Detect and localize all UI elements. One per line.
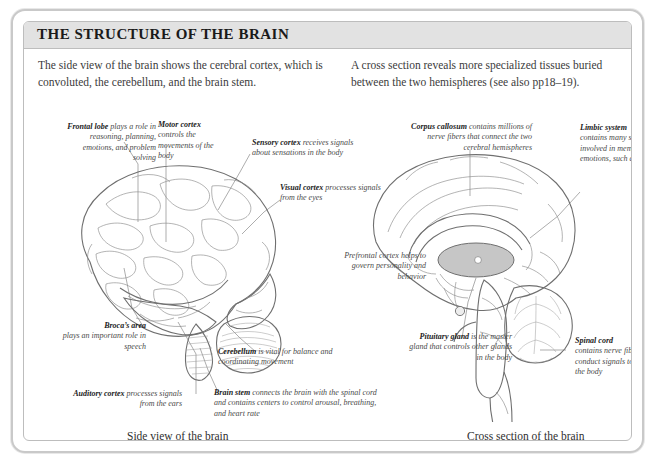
label-prefrontal-cortex-text: Prefrontal cortex helps to govern person… <box>344 251 426 281</box>
brain-stem-hatching <box>186 336 213 374</box>
label-motor-cortex: Motor cortex controls the movements of t… <box>158 120 228 162</box>
label-auditory-cortex: Auditory cortex processes signals from t… <box>58 389 182 410</box>
caption-side-view: Side view of the brain <box>127 430 229 441</box>
intro-text-right: A cross section reveals more specialized… <box>351 57 632 91</box>
label-limbic-system-text: contains many structures involved in mem… <box>580 133 632 163</box>
intro-text-left: The side view of the brain shows the cer… <box>38 57 338 91</box>
label-sensory-cortex-term: Sensory cortex <box>252 138 301 147</box>
page-title: THE STRUCTURE OF THE BRAIN <box>37 26 289 43</box>
label-spinal-cord-text: contains nerve fibers that conduct signa… <box>575 346 632 376</box>
label-brocas-area-text: plays an important role in speech <box>63 331 146 350</box>
label-visual-cortex-term: Visual cortex <box>280 183 323 192</box>
diagram-card-inner: THE STRUCTURE OF THE BRAIN The side view… <box>23 21 632 441</box>
label-spinal-cord: Spinal cord contains nerve fibers that c… <box>575 336 632 378</box>
label-motor-cortex-text: controls the movements of the body <box>158 130 214 160</box>
label-frontal-lobe-term: Frontal lobe <box>67 122 108 131</box>
caption-cross-section: Cross section of the brain <box>467 430 585 441</box>
label-corpus-callosum: Corpus callosum contains millions of ner… <box>408 122 532 153</box>
label-brocas-area: Broca’s area plays an important role in … <box>62 321 146 352</box>
label-cerebellum: Cerebellum is vital for balance and coor… <box>218 347 364 368</box>
label-auditory-cortex-text: processes signals from the ears <box>125 389 182 408</box>
page-background: THE STRUCTURE OF THE BRAIN The side view… <box>0 0 657 465</box>
cortex-gyri <box>88 175 270 321</box>
label-corpus-callosum-term: Corpus callosum <box>411 122 467 131</box>
label-spinal-cord-term: Spinal cord <box>575 336 613 345</box>
label-limbic-system: Limbic system contains many structures i… <box>580 123 632 165</box>
pituitary-gland-shape <box>455 282 465 316</box>
label-pituitary-gland-term: Pituitary gland <box>420 332 470 341</box>
thalamus-shape <box>438 243 514 277</box>
label-brain-stem-term: Brain stem <box>214 388 250 397</box>
label-auditory-cortex-term: Auditory cortex <box>73 389 124 398</box>
label-limbic-system-term: Limbic system <box>580 123 627 132</box>
label-cerebellum-term: Cerebellum <box>218 347 256 356</box>
label-pituitary-gland: Pituitary gland is the master gland that… <box>402 332 512 363</box>
diagram-card: THE STRUCTURE OF THE BRAIN The side view… <box>11 9 644 453</box>
arbor-vitae <box>514 296 561 362</box>
cerebrum-outline-shape <box>374 155 575 311</box>
label-prefrontal-cortex: Prefrontal cortex helps to govern person… <box>336 251 426 282</box>
label-brocas-area-term: Broca’s area <box>104 321 146 330</box>
label-motor-cortex-term: Motor cortex <box>158 120 201 129</box>
label-frontal-lobe: Frontal lobe plays a role in reasoning, … <box>64 122 156 164</box>
